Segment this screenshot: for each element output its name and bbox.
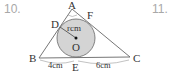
label-a: A	[68, 0, 76, 11]
label-o: O	[72, 41, 80, 53]
angle-arc-a	[68, 15, 77, 17]
label-c: C	[133, 52, 140, 64]
label-radius: rcm	[67, 23, 81, 33]
incircle-triangle-diagram: A F D rcm O B C E 4cm 6cm	[0, 0, 175, 77]
center-o-dot	[75, 37, 78, 40]
label-e: E	[72, 61, 79, 73]
label-d: D	[51, 18, 59, 30]
label-be-length: 4cm	[48, 60, 63, 70]
label-f: F	[87, 9, 93, 21]
label-ec-length: 6cm	[96, 60, 111, 70]
label-b: B	[29, 52, 36, 64]
